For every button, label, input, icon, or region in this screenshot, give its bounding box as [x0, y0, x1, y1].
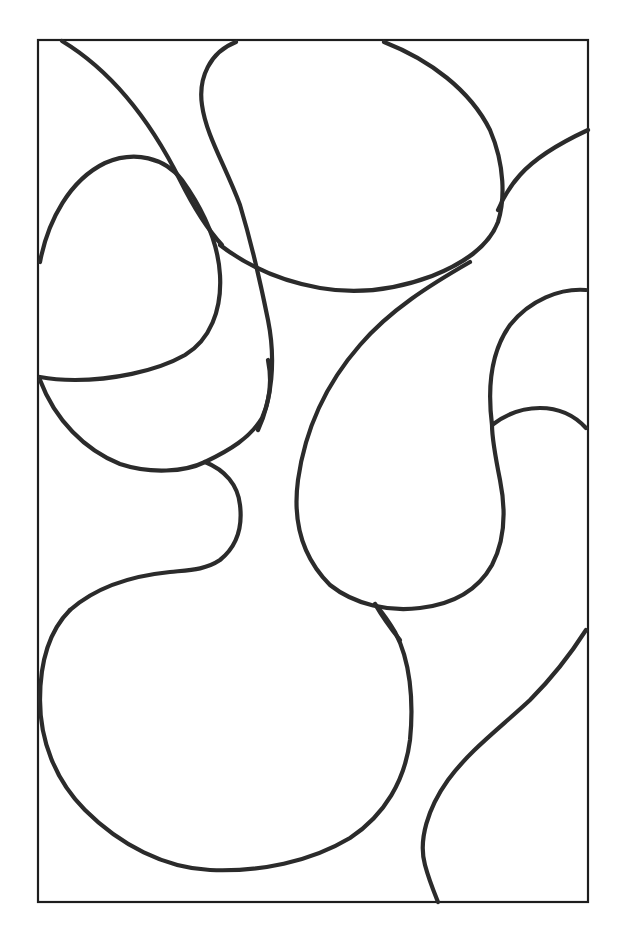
- top-left-diagonal-curve-shape: [62, 41, 222, 245]
- left-middle-bulb-shape: [40, 360, 270, 471]
- left-upper-blob-shape: [40, 157, 220, 380]
- bottom-right-s-curve-shape: [423, 630, 586, 902]
- left-middle-stem-shape: [70, 462, 241, 610]
- right-upper-curve-shape: [498, 130, 588, 210]
- center-right-teardrop-shape: [297, 262, 504, 609]
- bottom-left-large-blob-shape: [40, 604, 411, 870]
- outer-frame: [38, 40, 588, 902]
- top-center-oval-right-shape: [220, 42, 503, 291]
- coloring-page: Abstract blob coloring page: [0, 0, 624, 937]
- right-edge-lobe-shape: [490, 290, 586, 428]
- line-art-canvas: [0, 0, 624, 937]
